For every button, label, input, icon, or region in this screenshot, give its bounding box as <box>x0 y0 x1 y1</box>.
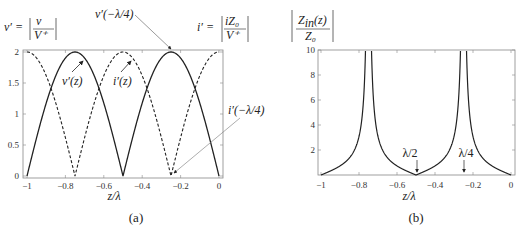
i-prime-label: i′ = <box>197 20 214 34</box>
v-prime-numerator: v <box>36 14 42 28</box>
v-prime-label: v′ = <box>4 20 23 34</box>
y-tick-a: 1.5 <box>8 78 20 88</box>
y-tick-a: 0.5 <box>8 140 20 150</box>
y-tick-b: 6 <box>311 95 316 105</box>
annotation-v-quarter: v′(−λ/4) <box>95 7 134 21</box>
x-tick-a: 0 <box>217 181 222 191</box>
plot-frame-a <box>23 50 223 178</box>
chart-b: 246810 −1−0.8−0.6−0.4−0.20 Zin(z) Z₀ λ/2… <box>292 10 515 225</box>
series-v-prime <box>27 52 219 176</box>
annotation-i-z: i′(z) <box>113 74 132 88</box>
x-tick-b: −1 <box>316 180 326 190</box>
x-axis-b: −1−0.8−0.6−0.4−0.20 <box>316 50 514 190</box>
zin-numerator: Zin(z) <box>298 13 327 30</box>
y-tick-a: 1 <box>15 109 20 119</box>
y-tick-b: 2 <box>311 145 316 155</box>
y-tick-a: 0 <box>15 171 20 181</box>
series-i-prime <box>27 52 219 176</box>
y-tick-b: 8 <box>311 70 316 80</box>
annotation-half-wave: λ/2 <box>402 146 417 160</box>
y-axis-a: 00.511.52 <box>8 47 223 181</box>
x-tick-b: 0 <box>509 180 514 190</box>
zin-denominator: Z₀ <box>305 29 316 43</box>
annotation-quarter-wave: λ/4 <box>458 146 473 160</box>
y-tick-a: 2 <box>15 47 20 57</box>
y-tick-b: 4 <box>311 120 316 130</box>
i-prime-numerator: iZ₀ <box>225 14 239 28</box>
chart-a: 00.511.52 −1−0.8−0.6−0.4−0.20 v′ = v V⁺ … <box>4 7 265 225</box>
annotation-v-z: v′(z) <box>62 74 83 88</box>
x-tick-a: −0.2 <box>172 181 188 191</box>
x-axis-label-b: z/λ <box>401 189 415 203</box>
x-tick-b: −0.4 <box>427 180 444 190</box>
x-tick-a: −0.8 <box>57 181 74 191</box>
figure: 00.511.52 −1−0.8−0.6−0.4−0.20 v′ = v V⁺ … <box>0 0 521 233</box>
caption-b: (b) <box>408 210 423 225</box>
x-tick-b: −0.8 <box>351 180 368 190</box>
y-axis-b: 246810 <box>306 45 515 155</box>
x-tick-a: −1 <box>22 181 32 191</box>
x-axis-label-a: z/λ <box>106 189 120 203</box>
caption-a: (a) <box>129 210 143 225</box>
y-tick-b: 10 <box>306 45 316 55</box>
x-tick-b: −0.2 <box>465 180 481 190</box>
x-tick-a: −0.4 <box>134 181 151 191</box>
v-prime-denominator: V⁺ <box>34 28 49 42</box>
i-prime-denominator: V⁺ <box>226 28 241 42</box>
annotation-i-quarter: i′(−λ/4) <box>228 103 265 117</box>
